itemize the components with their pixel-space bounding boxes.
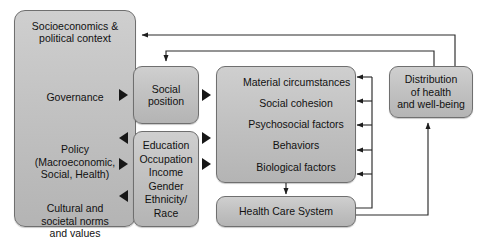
node-distribution-of-health[interactable]: Distribution of health and well-being	[389, 66, 473, 118]
factor-ethnicity: Ethnicity/	[145, 193, 188, 205]
wire-distribution-to-social-position	[166, 51, 434, 66]
node-social-position[interactable]: Social position	[133, 66, 199, 124]
health-care-system-label: Health Care System	[239, 205, 333, 217]
arrowhead-individual-position-to-context-lower	[119, 190, 128, 202]
context-group-governance: Governance	[15, 91, 135, 103]
context-group-policy: Policy (Macroeconomic, Social, Health)	[15, 143, 135, 180]
node-individual-social-position-factors[interactable]: Education Occupation Income Gender Ethni…	[133, 131, 199, 227]
distribution-line-1: Distribution	[405, 73, 458, 85]
arrowhead-context-to-individual-position	[119, 158, 128, 170]
node-socioeconomic-and-political-context[interactable]: Socioeconomics & political context Gover…	[14, 10, 136, 227]
distribution-line-3: and well-being	[397, 98, 465, 110]
context-group-header: Socioeconomics & political context	[15, 20, 135, 45]
arrowhead-social-position-to-determinants	[202, 89, 211, 101]
cultural-line-1: Cultural and	[15, 202, 135, 214]
factor-gender: Gender	[148, 180, 183, 192]
determinant-psychosocial-factors: Psychosocial factors	[243, 118, 349, 130]
social-position-line-1: Social	[152, 83, 181, 95]
wire-distribution-to-context	[142, 35, 455, 66]
factor-income: Income	[149, 166, 183, 178]
determinant-social-cohesion: Social cohesion	[243, 97, 349, 109]
policy-line-3: Social, Health)	[15, 168, 135, 180]
social-determinants-diagram: Socioeconomics & political context Gover…	[0, 0, 480, 244]
social-position-line-2: position	[148, 95, 184, 107]
factor-education: Education	[143, 139, 190, 151]
context-line-2: political context	[15, 32, 135, 44]
determinant-material-circumstances: Material circumstances	[243, 76, 349, 88]
governance-label: Governance	[15, 91, 135, 103]
arrowhead-context-to-social-position	[119, 89, 128, 101]
determinant-biological-factors: Biological factors	[243, 161, 349, 173]
arrowhead-individual-position-to-determinants-lower	[202, 158, 211, 170]
context-line-1: Socioeconomics &	[15, 20, 135, 32]
context-group-cultural-norms: Cultural and societal norms and values	[15, 202, 135, 239]
distribution-line-2: of health	[411, 86, 451, 98]
factor-race: Race	[154, 207, 179, 219]
wire-hcs-to-distribution	[356, 123, 428, 215]
arrowhead-individual-position-to-determinants-upper	[202, 132, 211, 144]
factor-occupation: Occupation	[139, 153, 192, 165]
cultural-line-3: and values	[15, 227, 135, 239]
cultural-line-2: societal norms	[15, 215, 135, 227]
policy-line-2: (Macroeconomic,	[15, 156, 135, 168]
determinant-behaviors: Behaviors	[243, 139, 349, 151]
node-intermediary-determinants[interactable]: Material circumstances Social cohesion P…	[216, 66, 356, 183]
node-health-care-system[interactable]: Health Care System	[216, 196, 356, 227]
wire-hcs-feedback-spine	[356, 77, 372, 208]
arrowhead-individual-position-to-context-upper	[119, 132, 128, 144]
policy-line-1: Policy	[15, 143, 135, 155]
